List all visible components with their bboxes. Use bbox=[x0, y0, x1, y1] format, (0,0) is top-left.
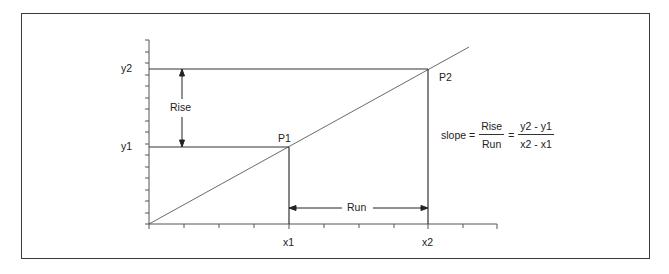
y2-label: y2 bbox=[121, 62, 132, 74]
x2-label: x2 bbox=[422, 236, 433, 248]
formula-lhs: slope = bbox=[441, 129, 475, 141]
fraction-denominator: Run bbox=[480, 135, 503, 150]
rise-label: Rise bbox=[170, 101, 191, 113]
rise-over-run-fraction: Rise Run bbox=[479, 120, 504, 150]
difference-fraction: y2 - y1 x2 - x1 bbox=[518, 120, 554, 150]
x1-label: x1 bbox=[283, 236, 294, 248]
fraction-numerator: y2 - y1 bbox=[518, 120, 554, 135]
slope-diagram bbox=[0, 0, 669, 274]
fraction-denominator: x2 - x1 bbox=[518, 135, 554, 150]
run-label: Run bbox=[347, 201, 366, 213]
slope-line bbox=[149, 47, 469, 224]
fraction-numerator: Rise bbox=[479, 120, 504, 135]
point-p1-label: P1 bbox=[278, 132, 291, 144]
x-axis-ticks bbox=[149, 224, 497, 229]
y-axis-ticks bbox=[145, 40, 149, 213]
y1-label: y1 bbox=[121, 140, 132, 152]
slope-formula: slope = Rise Run = y2 - y1 x2 - x1 bbox=[441, 120, 554, 150]
formula-equals: = bbox=[508, 129, 514, 141]
point-p2-label: P2 bbox=[439, 71, 452, 83]
